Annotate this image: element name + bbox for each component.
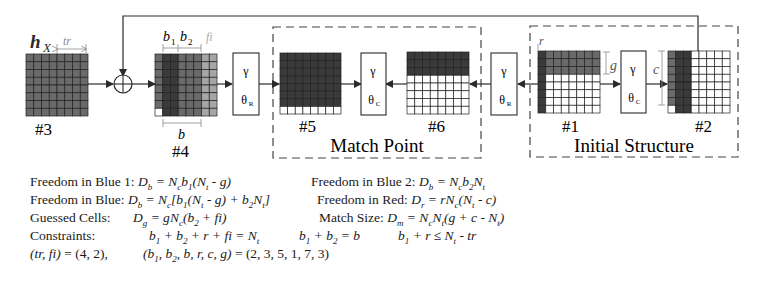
constraint-1: b1 + b2 + r + fi = Nt [149, 228, 259, 243]
op-box-round-1: γ θ R [233, 53, 259, 115]
state-1-grid [538, 51, 600, 113]
param-tr-fi: (tr, fi) = (4, 2), [30, 246, 108, 261]
svg-text:θ: θ [241, 93, 247, 107]
state-5-grid [280, 53, 341, 114]
svg-text:γ: γ [500, 64, 507, 78]
svg-text:γ: γ [369, 64, 376, 78]
op-box-match-c: γ θ C [361, 53, 386, 115]
svg-text:g: g [610, 58, 617, 73]
svg-text:c: c [653, 62, 660, 77]
svg-text:R: R [507, 100, 512, 108]
freedom-blue1-formula: Db = Ncb1(Nt - g) [138, 174, 231, 189]
constraint-2: b1 + b2 = b [299, 228, 360, 243]
svg-text:γ: γ [629, 62, 636, 76]
svg-text:C: C [376, 100, 381, 108]
constraints-label: Constraints: [30, 228, 95, 243]
state-6-label: #6 [428, 117, 445, 136]
state-4-label: #4 [172, 142, 190, 161]
xor-icon [114, 75, 132, 93]
param-values: (b1, b2, b, r, c, g) = (2, 3, 5, 1, 7, 3… [143, 246, 329, 261]
constraint-3: b1 + r ≤ Nt - tr [398, 228, 476, 243]
svg-text:b: b [163, 29, 170, 44]
svg-text:r: r [539, 34, 544, 48]
op-box-init-c: γ θ C [621, 51, 646, 113]
svg-text:γ: γ [242, 64, 249, 78]
state-2-grid [668, 51, 730, 113]
svg-text:C: C [636, 98, 641, 106]
guessed-cells-label: Guessed Cells: [30, 210, 111, 225]
initial-structure-label: Initial Structure [574, 135, 694, 156]
svg-text:θ: θ [368, 93, 374, 107]
freedom-blue1-label: Freedom in Blue 1: [30, 174, 138, 189]
svg-text:b: b [180, 29, 187, 44]
state-3-label: #3 [35, 120, 52, 139]
svg-text:R: R [249, 100, 254, 108]
tr-label: tr [63, 34, 71, 48]
hx-sub: X [42, 40, 52, 55]
svg-text:fi: fi [206, 30, 213, 44]
state-2-label: #2 [695, 117, 712, 136]
svg-text:1: 1 [171, 37, 176, 47]
match-size-label: Match Size: [319, 210, 387, 225]
svg-text:θ: θ [628, 91, 634, 105]
freedom-red-formula: Dr = rNc(Nt - c) [411, 192, 496, 207]
svg-text:b: b [178, 127, 185, 142]
svg-text:θ: θ [499, 93, 505, 107]
guessed-cells-formula: Dg = gNc(b2 + fi) [133, 210, 227, 225]
state-6-grid [407, 52, 469, 114]
state-1-label: #1 [562, 117, 579, 136]
svg-text:2: 2 [188, 37, 193, 47]
op-box-round-2: γ θ R [491, 53, 517, 115]
freedom-red-label: Freedom in Red: [317, 192, 411, 207]
state-3-grid [26, 54, 88, 116]
match-size-formula: Dm = NcNt(g + c - Nt) [387, 210, 504, 225]
attack-diagram: γ θ R γ θ C γ θ R γ θ C h X tr b 1 b 2 f… [0, 0, 763, 170]
freedom-blue2-formula: Db = Ncb2Nt [419, 174, 485, 189]
freedom-blue2-label: Freedom in Blue 2: [311, 174, 419, 189]
state-5-label: #5 [299, 117, 316, 136]
freedom-blue-label: Freedom in Blue: [30, 192, 128, 207]
match-point-label: Match Point [330, 135, 424, 156]
state-4-grid [155, 54, 217, 116]
freedom-blue-formula: Db = Nc[b1(Nt - g) + b2Nt] [128, 192, 270, 207]
hx-label: h [30, 31, 41, 52]
